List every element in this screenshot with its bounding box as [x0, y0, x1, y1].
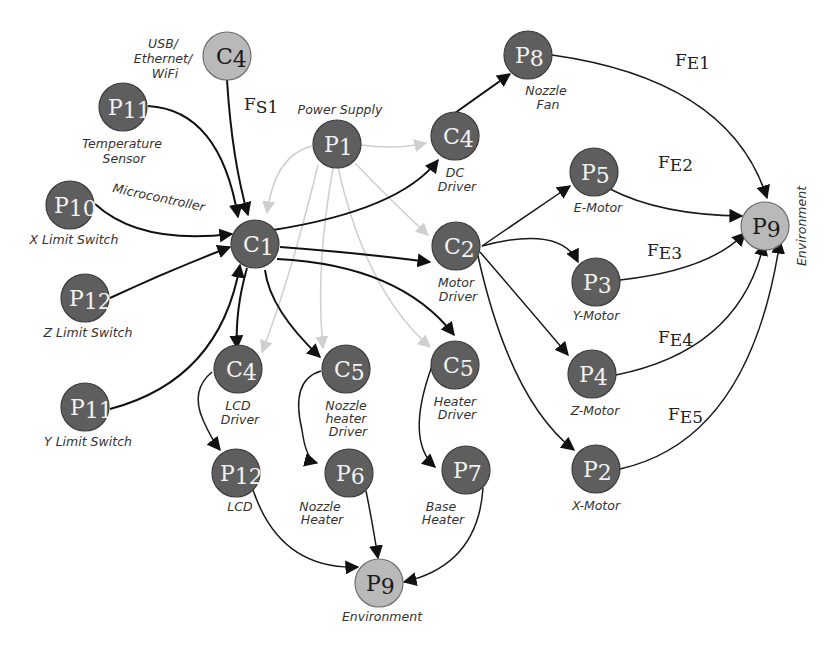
flow-label-fe5: FE5: [668, 404, 703, 427]
edge-p5-p9: [610, 189, 742, 216]
node-c4-dc-driver: C4: [431, 112, 479, 160]
svg-text:C4: C4: [226, 357, 257, 385]
svg-text:P4: P4: [579, 362, 608, 390]
edge-c2-p3: [482, 238, 578, 262]
edge-c1-c4dc: [273, 160, 438, 230]
caption-nozzle-fan: Nozzle Fan: [525, 83, 570, 112]
node-c5-heater-driver: C5: [431, 341, 479, 389]
caption-z-motor: Z-Motor: [570, 403, 620, 418]
node-p7-base-heater: P7: [442, 446, 490, 494]
svg-text:P5: P5: [581, 160, 610, 188]
edge-c2-p4: [480, 252, 568, 355]
svg-text:P6: P6: [336, 461, 365, 489]
svg-text:P12: P12: [220, 461, 263, 489]
svg-text:C5: C5: [443, 353, 474, 381]
svg-text:C2: C2: [444, 234, 475, 262]
svg-text:C5: C5: [334, 357, 365, 385]
node-c1-microcontroller: C1: [231, 220, 279, 268]
svg-text:P11: P11: [70, 395, 113, 423]
node-p12-lcd: P12: [212, 449, 263, 497]
caption-power-supply: Power Supply: [298, 102, 383, 117]
node-p11-y-limit-switch: P11: [61, 383, 113, 431]
caption-usb: USB/ Ethernet/ WiFi: [134, 36, 196, 81]
edge-c5heater-p7: [419, 366, 435, 467]
edge-c5nozzle-p6: [299, 371, 321, 463]
caption-dc-driver: DC Driver: [438, 165, 477, 194]
svg-text:P3: P3: [583, 270, 612, 298]
node-p5-e-motor: P5: [570, 148, 618, 196]
node-p3-y-motor: P3: [572, 258, 620, 306]
svg-text:C4: C4: [216, 44, 247, 72]
svg-text:C1: C1: [243, 232, 274, 260]
caption-motor-driver: Motor Driver: [438, 275, 478, 304]
caption-e-motor: E-Motor: [574, 200, 623, 215]
svg-text:P9: P9: [752, 214, 781, 242]
edge-p3-p9: [620, 233, 745, 280]
flow-label-fe1: FE1: [675, 50, 710, 73]
node-p12-z-limit-switch: P12: [61, 274, 112, 322]
flow-label-fe3: FE3: [647, 240, 682, 263]
edge-p1-c1: [267, 146, 312, 213]
svg-text:C4: C4: [443, 124, 474, 152]
edge-c4dc-p8: [455, 74, 510, 113]
node-p4-z-motor: P4: [568, 350, 616, 398]
flow-label-fs1: FS1: [244, 94, 278, 117]
edge-c1-c5heater: [277, 259, 454, 335]
edge-c1-c5nozzle: [265, 270, 320, 357]
edge-p1-c5nozzle: [321, 168, 333, 348]
node-p6-nozzle-heater: P6: [325, 449, 373, 497]
edge-p12z-c1: [110, 247, 230, 298]
node-c4-lcd-driver: C4: [214, 345, 262, 393]
flow-label-fe2: FE2: [658, 152, 693, 175]
caption-x-motor: X-Motor: [571, 498, 621, 513]
caption-environment-bottom: Environment: [342, 609, 423, 624]
edge-c1-c4lcd: [237, 268, 247, 348]
node-p8-nozzle-fan: P8: [504, 31, 552, 79]
node-p10-x-limit-switch: P10: [46, 181, 97, 229]
system-flow-diagram: FS1 FE1 FE2 FE3 FE4 FE5 C4 USB/ Ethernet…: [0, 0, 835, 650]
node-c4-usb: C4: [203, 32, 251, 80]
edge-p4-p9: [616, 243, 764, 375]
node-p11-temperature-sensor: P11: [99, 83, 151, 131]
caption-x-limit-switch: X Limit Switch: [29, 232, 119, 247]
svg-text:P9: P9: [366, 571, 395, 599]
edge-c2-p2: [478, 256, 574, 450]
node-c5-nozzle-heater-driver: C5: [322, 345, 370, 393]
caption-base-heater: Base Heater: [422, 499, 465, 527]
edge-c1-c2: [280, 247, 430, 262]
edge-p1-c4dc: [361, 143, 426, 147]
svg-text:P8: P8: [515, 43, 544, 71]
svg-text:P11: P11: [108, 95, 151, 123]
svg-text:P1: P1: [324, 132, 353, 160]
edge-p1-c2: [355, 163, 428, 235]
caption-lcd: LCD: [227, 499, 253, 514]
node-c2-motor-driver: C2: [432, 222, 480, 270]
edge-p2-p9: [620, 241, 780, 469]
caption-environment-right: Environment: [794, 185, 809, 266]
caption-nozzle-heater: Nozzle Heater: [299, 499, 344, 527]
caption-microcontroller: Microcontroller: [111, 180, 207, 214]
node-p9-environment-bottom: P9: [355, 559, 403, 607]
edge-c2-p5: [482, 186, 570, 246]
svg-text:P10: P10: [54, 193, 97, 221]
caption-heater-driver: Heater Driver: [434, 394, 480, 422]
caption-y-motor: Y-Motor: [573, 308, 620, 323]
svg-text:P7: P7: [453, 458, 482, 486]
node-p9-environment-right: P9: [741, 202, 789, 250]
edge-c4lcd-p12lcd: [198, 372, 220, 450]
caption-lcd-driver: LCD Driver: [221, 398, 260, 427]
caption-nozzle-heater-driver: Nozzle heater Driver: [325, 398, 370, 439]
flow-label-fe4: FE4: [658, 327, 693, 350]
node-p1-power-supply: P1: [313, 120, 361, 168]
svg-text:P2: P2: [583, 457, 612, 485]
node-p2-x-motor: P2: [572, 445, 620, 493]
caption-temperature-sensor: Temperature Sensor: [82, 136, 166, 166]
svg-text:P12: P12: [69, 286, 112, 314]
caption-y-limit-switch: Y Limit Switch: [44, 434, 132, 449]
edge-p6-p9: [366, 491, 378, 558]
caption-z-limit-switch: Z Limit Switch: [43, 325, 133, 340]
